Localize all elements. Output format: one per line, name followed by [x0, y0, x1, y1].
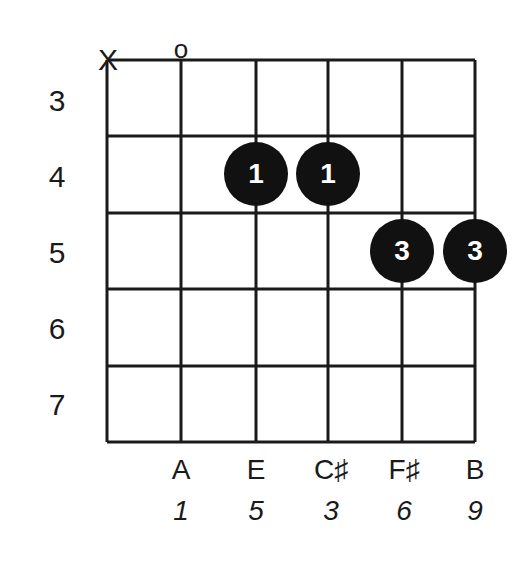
finger-number: 1 [248, 158, 264, 190]
fret-label: 6 [37, 314, 77, 344]
finger-number: 3 [467, 235, 483, 267]
note-label: C♯ [301, 456, 361, 484]
interval-label: 9 [445, 497, 505, 525]
fret-label: 5 [37, 238, 77, 268]
interval-label: 5 [226, 497, 286, 525]
interval-label: 1 [151, 497, 211, 525]
finger-dot: 1 [224, 142, 288, 206]
note-label: E [226, 456, 286, 484]
fret-label: 7 [37, 390, 77, 420]
finger-dot: 3 [370, 219, 434, 283]
interval-label: 3 [301, 497, 361, 525]
note-label: F♯ [374, 456, 434, 484]
finger-dot: 1 [296, 142, 360, 206]
fret-label: 4 [37, 162, 77, 192]
note-label: A [151, 456, 211, 484]
finger-dot: 3 [443, 219, 507, 283]
finger-number: 1 [320, 158, 336, 190]
interval-label: 6 [374, 497, 434, 525]
open-string-marker: o [166, 36, 196, 62]
fret-label: 3 [37, 86, 77, 116]
note-label: B [445, 456, 505, 484]
finger-number: 3 [394, 235, 410, 267]
muted-string-marker: X [93, 45, 123, 75]
